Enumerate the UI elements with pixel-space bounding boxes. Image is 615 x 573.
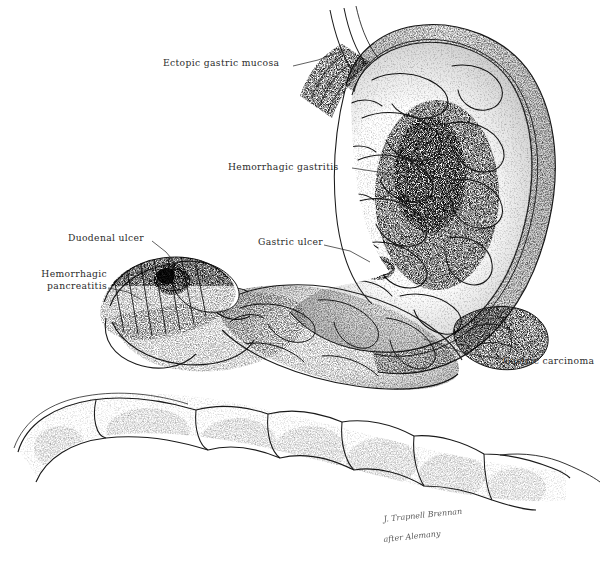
label-gastric-ulcer: Gastric ulcer xyxy=(258,236,323,248)
label-hemorrhagic-gastritis: Hemorrhagic gastritis xyxy=(228,161,339,173)
signature-line-1: J. Trapnell Brennan xyxy=(383,507,462,524)
signature-line-2: after Alemany xyxy=(383,527,465,545)
label-gastric-carcinoma: Gastric carcinoma xyxy=(503,355,594,367)
artist-signature: J. Trapnell Brennan after Alemany xyxy=(372,497,467,566)
transverse-colon-group xyxy=(10,390,600,520)
label-duodenal-ulcer: Duodenal ulcer xyxy=(68,232,144,244)
label-ectopic-gastric-mucosa: Ectopic gastric mucosa xyxy=(163,57,279,69)
medical-illustration-figure: Ectopic gastric mucosa Hemorrhagic gastr… xyxy=(0,0,615,573)
label-hemorrhagic-pancreatitis: Hemorrhagic pancreatitis xyxy=(17,268,107,291)
